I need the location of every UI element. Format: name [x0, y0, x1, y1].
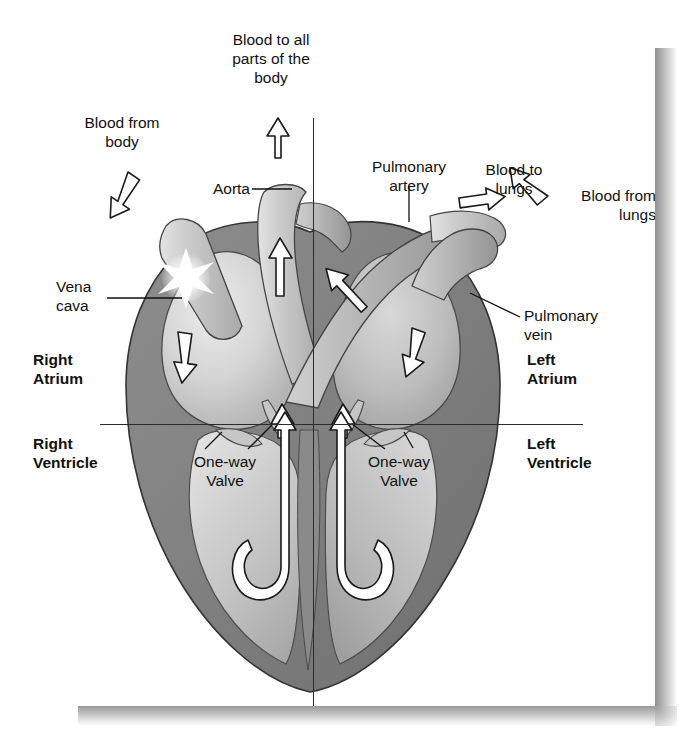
label-right-atrium: Right Atrium: [33, 350, 133, 388]
diagram-page: Blood to all parts of the body Blood fro…: [0, 0, 685, 746]
label-aorta: Aorta: [152, 179, 250, 198]
page-bottom-shadow: [78, 706, 655, 726]
vertical-center-axis: [313, 118, 314, 710]
label-one-way-valve-left: One-way Valve: [176, 452, 274, 490]
horizontal-divider-axis: [100, 424, 583, 425]
label-one-way-valve-right: One-way Valve: [350, 452, 448, 490]
blood-to-body-arrow: [267, 118, 289, 158]
label-vena-cava: Vena cava: [56, 277, 126, 315]
label-pulmonary-artery: Pulmonary artery: [350, 157, 468, 195]
label-right-ventricle: Right Ventricle: [33, 434, 143, 472]
label-blood-from-lungs: Blood from lungs: [544, 186, 656, 224]
label-left-ventricle: Left Ventricle: [527, 434, 637, 472]
blood-from-body-arrow: [101, 172, 146, 224]
label-blood-from-body: Blood from body: [58, 113, 186, 151]
page-corner-shadow: [655, 706, 677, 726]
label-blood-to-body: Blood to all parts of the body: [196, 30, 346, 87]
label-left-atrium: Left Atrium: [527, 350, 627, 388]
label-pulmonary-vein: Pulmonary vein: [524, 306, 644, 344]
page-right-shadow: [655, 48, 677, 720]
